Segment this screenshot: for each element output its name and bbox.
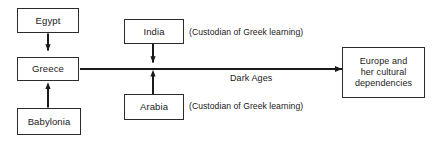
node-arabia: Arabia <box>124 94 184 120</box>
node-europe: Europe and her cultural dependencies <box>342 47 425 98</box>
flow-diagram: Egypt Greece Babylonia India Arabia Euro… <box>0 0 443 142</box>
edge-label-dark-ages: Dark Ages <box>230 73 272 83</box>
node-egypt-label: Egypt <box>36 15 61 27</box>
node-europe-label-line2: her cultural <box>361 67 407 78</box>
node-greece-label: Greece <box>32 63 64 75</box>
node-egypt: Egypt <box>17 8 79 33</box>
node-babylonia: Babylonia <box>17 108 81 135</box>
node-europe-label-line3: dependencies <box>355 78 412 89</box>
node-india: India <box>124 19 184 44</box>
node-europe-label-line1: Europe and <box>360 56 408 67</box>
annotation-india-custodian: (Custodian of Greek learning) <box>189 27 303 37</box>
node-india-label: India <box>143 26 164 38</box>
node-arabia-label: Arabia <box>140 101 168 113</box>
annotation-arabia-custodian: (Custodian of Greek learning) <box>189 101 303 111</box>
node-greece: Greece <box>17 57 79 81</box>
node-babylonia-label: Babylonia <box>28 116 71 128</box>
